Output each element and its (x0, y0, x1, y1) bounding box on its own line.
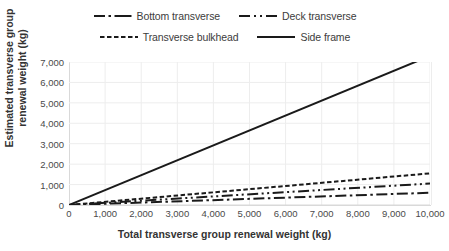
x-tick-label: 10,000 (415, 208, 444, 219)
plot-svg (69, 62, 430, 205)
legend-item-transverse-bulkhead: Transverse bulkhead (99, 31, 239, 43)
y-tick-label: 3,000 (40, 138, 64, 149)
y-tick-label: 6,000 (40, 77, 64, 88)
x-tick-label: 0 (66, 208, 71, 219)
legend-label-side-frame: Side frame (300, 31, 350, 43)
x-axis-line (69, 205, 431, 206)
y-tick-label: 4,000 (40, 118, 64, 129)
legend-label-transverse-bulkhead: Transverse bulkhead (143, 31, 239, 43)
y-tick-label: 1,000 (40, 179, 64, 190)
x-tick-label: 3,000 (165, 208, 189, 219)
legend-item-deck-transverse: Deck transverse (238, 10, 356, 22)
legend-row-2: Transverse bulkhead Side frame (0, 31, 449, 43)
legend-label-bottom-transverse: Bottom transverse (137, 10, 221, 22)
y-tick-label: 7,000 (40, 57, 64, 68)
legend-row-1: Bottom transverse Deck transverse (0, 10, 449, 22)
y-tick-label: 2,000 (40, 159, 64, 170)
y-tick-label: 5,000 (40, 97, 64, 108)
legend-swatch-deck-transverse (238, 11, 278, 21)
legend-swatch-bottom-transverse (93, 11, 133, 21)
legend-item-side-frame: Side frame (256, 31, 350, 43)
x-tick-label: 4,000 (202, 208, 226, 219)
legend-label-deck-transverse: Deck transverse (282, 10, 356, 22)
x-tick-label: 7,000 (310, 208, 334, 219)
x-tick-label: 9,000 (382, 208, 406, 219)
plot-area (69, 62, 430, 205)
y-tick-label: 0 (59, 200, 64, 211)
x-tick-label: 5,000 (238, 208, 262, 219)
y-axis-title: Estimated transverse group renewal weigh… (0, 3, 33, 153)
x-axis-title: Total transverse group renewal weight (k… (0, 228, 449, 240)
legend-item-bottom-transverse: Bottom transverse (93, 10, 221, 22)
x-tick-label: 6,000 (274, 208, 298, 219)
legend-swatch-side-frame (256, 32, 296, 42)
legend-swatch-transverse-bulkhead (99, 32, 139, 42)
x-tick-label: 2,000 (129, 208, 153, 219)
chart-legend: Bottom transverse Deck transverse Transv (0, 4, 449, 50)
x-axis-tick-labels: 01,0002,0003,0004,0005,0006,0007,0008,00… (69, 208, 431, 224)
chart-container: Bottom transverse Deck transverse Transv (0, 0, 449, 251)
x-tick-label: 1,000 (93, 208, 117, 219)
x-tick-label: 8,000 (346, 208, 370, 219)
